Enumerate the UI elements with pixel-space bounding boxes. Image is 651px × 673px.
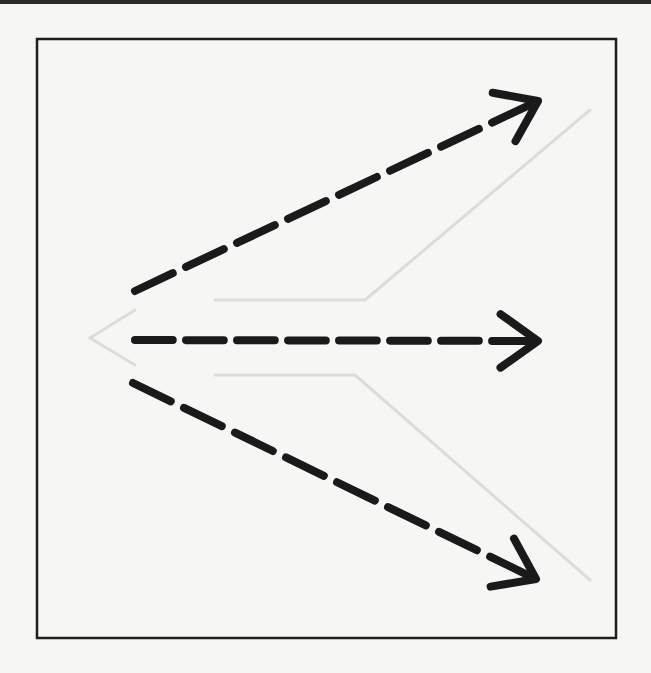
arrow-dash xyxy=(186,249,224,267)
ghost-lines xyxy=(90,110,590,580)
arrow-dash xyxy=(235,433,273,451)
arrow-dash xyxy=(135,273,173,291)
arrow-dash xyxy=(339,177,377,195)
arrow-up-right xyxy=(135,93,538,291)
ghost-line xyxy=(90,310,135,338)
arrow-dash xyxy=(441,129,479,147)
arrow-dash xyxy=(439,532,477,550)
arrow-dash xyxy=(286,457,324,475)
arrows-group xyxy=(133,93,538,587)
arrow-dash xyxy=(184,408,222,426)
arrow-dash xyxy=(288,201,326,219)
arrow-right xyxy=(135,314,538,367)
arrow-down-right xyxy=(133,383,536,587)
arrow-dash xyxy=(133,383,171,401)
arrow-dash xyxy=(237,225,275,243)
arrow-dash xyxy=(337,482,375,500)
diagram-canvas xyxy=(0,0,651,673)
ghost-line xyxy=(365,110,590,300)
arrow-dash xyxy=(390,153,428,171)
arrow-dash xyxy=(388,507,426,525)
ghost-line xyxy=(90,338,135,365)
